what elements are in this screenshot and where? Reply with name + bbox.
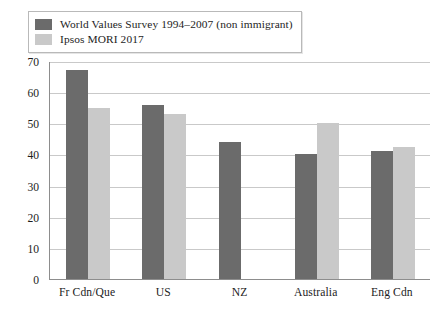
x-axis-tick-label: NZ [232, 286, 248, 299]
x-axis-tick-label: Eng Cdn [371, 286, 413, 299]
x-axis-tick-label: Fr Cdn/Que [59, 286, 115, 299]
y-axis-tick-label: 40 [13, 149, 39, 162]
bar-group [219, 62, 263, 279]
plot-area [49, 62, 430, 280]
legend-label-ipsos: Ipsos MORI 2017 [60, 33, 144, 45]
chart-legend: World Values Survey 1994–2007 (non immig… [28, 11, 302, 53]
bar [219, 142, 241, 279]
bar [393, 147, 415, 279]
y-axis-tick-label: 50 [13, 118, 39, 131]
bar [295, 154, 317, 279]
y-axis-tick-label: 20 [13, 211, 39, 224]
y-axis-tick-label: 0 [13, 274, 39, 287]
y-axis-tick-label: 30 [13, 180, 39, 193]
bar-group [371, 62, 415, 279]
x-axis-tick-label: Australia [294, 286, 337, 299]
bar [142, 105, 164, 279]
legend-swatch-ipsos [35, 34, 52, 45]
bar-group [66, 62, 110, 279]
y-axis-tick-label: 60 [13, 87, 39, 100]
y-axis-tick-label: 10 [13, 242, 39, 255]
bar-group [142, 62, 186, 279]
legend-item-wvs: World Values Survey 1994–2007 (non immig… [35, 17, 293, 31]
legend-swatch-wvs [35, 19, 52, 30]
bar [88, 108, 110, 279]
bar-group [295, 62, 339, 279]
bar [317, 123, 339, 279]
x-axis-tick-label: US [156, 286, 171, 299]
legend-item-ipsos: Ipsos MORI 2017 [35, 32, 293, 46]
legend-label-wvs: World Values Survey 1994–2007 (non immig… [60, 18, 293, 30]
bar-groups [50, 62, 430, 279]
bar [164, 114, 186, 279]
bar [66, 70, 88, 279]
bar [371, 151, 393, 279]
y-axis-tick-label: 70 [13, 56, 39, 69]
